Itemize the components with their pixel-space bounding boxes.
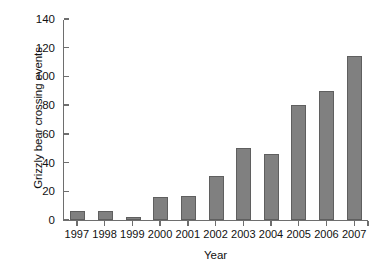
x-tick-mark (215, 221, 216, 226)
bar-slot (175, 20, 203, 220)
x-axis-slot: 2007 (340, 221, 368, 247)
x-axis-title: Year (63, 249, 368, 261)
x-tick-label-2003: 2003 (231, 228, 255, 240)
y-tick-label: 140 (36, 11, 55, 27)
bar-slot (257, 20, 285, 220)
x-tick-label-1998: 1998 (92, 228, 116, 240)
x-tick-mark (326, 221, 327, 226)
x-tick-label-2005: 2005 (286, 228, 310, 240)
x-tick-mark (187, 221, 188, 226)
x-tick-label-2000: 2000 (148, 228, 172, 240)
x-tick-mark (132, 221, 133, 226)
bar-slot (230, 20, 258, 220)
bar-1999[interactable] (126, 217, 141, 220)
bar-2003[interactable] (236, 148, 251, 220)
x-axis-slot: 1999 (118, 221, 146, 247)
y-tick-label: 80 (42, 97, 55, 113)
bar-chart: Grizzly bear crossing events 02040608010… (0, 0, 372, 275)
y-tick-label: 20 (42, 183, 55, 199)
x-axis-slot: 2005 (285, 221, 313, 247)
x-axis-slot: 2001 (174, 221, 202, 247)
x-axis-slot: 2006 (313, 221, 341, 247)
bar-slot (92, 20, 120, 220)
bar-slot (64, 20, 92, 220)
x-axis-end-tick (367, 221, 368, 226)
bar-2004[interactable] (264, 154, 279, 220)
x-axis-slot: 1997 (63, 221, 91, 247)
x-tick-label-1999: 1999 (120, 228, 144, 240)
bar-slot (119, 20, 147, 220)
bar-slot (147, 20, 175, 220)
plot-area: 020406080100120140 (63, 20, 368, 221)
bars-layer (64, 20, 368, 220)
bar-slot (202, 20, 230, 220)
y-tick-label: 120 (36, 40, 55, 56)
x-tick-label-2002: 2002 (203, 228, 227, 240)
x-tick-mark (354, 221, 355, 226)
bar-1998[interactable] (98, 211, 113, 220)
x-tick-label-2004: 2004 (259, 228, 283, 240)
x-tick-label-2001: 2001 (176, 228, 200, 240)
x-axis-slot: 2003 (229, 221, 257, 247)
bar-slot (313, 20, 341, 220)
bar-2002[interactable] (209, 176, 224, 221)
bar-2005[interactable] (291, 105, 306, 220)
x-tick-mark (243, 221, 244, 226)
x-tick-mark (270, 221, 271, 226)
y-tick-label: 60 (42, 126, 55, 142)
bar-2006[interactable] (319, 91, 334, 220)
bar-2001[interactable] (181, 196, 196, 220)
bar-slot (340, 20, 368, 220)
x-tick-label-2006: 2006 (314, 228, 338, 240)
x-axis-slot: 2002 (202, 221, 230, 247)
y-tick-label: 40 (42, 155, 55, 171)
x-tick-mark (76, 221, 77, 226)
y-tick-label: 0 (49, 212, 55, 228)
bar-2000[interactable] (153, 197, 168, 220)
bar-2007[interactable] (347, 56, 362, 220)
x-tick-label-1997: 1997 (65, 228, 89, 240)
x-axis-ticks: 1997199819992000200120022003200420052006… (63, 221, 368, 247)
x-tick-label-2007: 2007 (342, 228, 366, 240)
x-tick-mark (298, 221, 299, 226)
bar-1997[interactable] (70, 211, 85, 220)
x-tick-mark (104, 221, 105, 226)
x-axis-slot: 2000 (146, 221, 174, 247)
y-tick-label: 100 (36, 68, 55, 84)
bar-slot (285, 20, 313, 220)
x-tick-mark (159, 221, 160, 226)
x-axis-slot: 1998 (91, 221, 119, 247)
x-axis-slot: 2004 (257, 221, 285, 247)
